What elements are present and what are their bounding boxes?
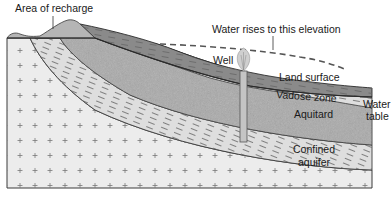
aquifer-diagram: Area of recharge Water rises to this ele… [0,0,391,200]
label-confined-1: Confined [293,143,335,155]
recharge-hill [7,20,95,38]
label-land-surface: Land surface [279,71,340,83]
label-area-of-recharge: Area of recharge [15,2,93,14]
label-water-table-2: table [366,110,389,122]
label-confined-2: aquifer [298,156,331,168]
label-aquitard: Aquitard [294,108,333,120]
well-fountain-icon [237,48,250,71]
label-well: Well [213,54,233,66]
label-water-table-1: Water [363,98,391,110]
well-casing [240,71,247,142]
label-water-rises: Water rises to this elevation [212,23,341,35]
